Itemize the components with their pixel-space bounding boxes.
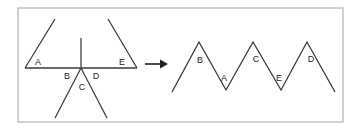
angle-label-right-a: A	[221, 73, 227, 83]
angle-label-left-a: A	[35, 57, 41, 67]
angle-label-left-e: E	[119, 57, 125, 67]
figure-root: A B C D E B A C E D	[0, 0, 356, 133]
angle-label-right-e: E	[276, 73, 282, 83]
angle-label-right-b: B	[197, 55, 203, 65]
angle-label-left-d: D	[93, 71, 100, 81]
angle-label-left-b: B	[64, 71, 70, 81]
figure-svg: A B C D E B A C E D	[0, 0, 356, 133]
angle-label-left-c: C	[79, 82, 86, 92]
angle-label-right-d: D	[308, 54, 315, 64]
angle-label-right-c: C	[253, 54, 260, 64]
